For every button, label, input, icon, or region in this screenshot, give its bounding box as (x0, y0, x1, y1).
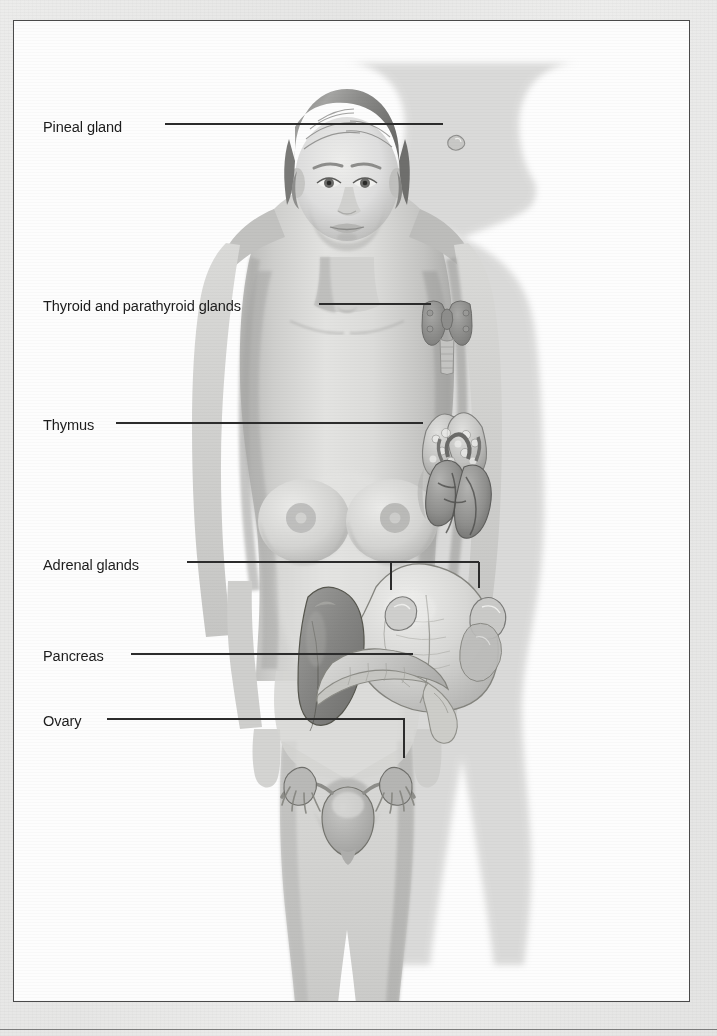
figure-panel: Pineal glandThyroid and parathyroid glan… (13, 20, 690, 1002)
label-pineal: Pineal gland (43, 118, 122, 136)
label-pancreas: Pancreas (43, 647, 104, 665)
label-adrenal: Adrenal glands (43, 556, 139, 574)
page-horizontal-rule (0, 1029, 717, 1030)
leader-line-ovary (107, 719, 404, 758)
leader-lines-layer (14, 21, 690, 1002)
label-ovary: Ovary (43, 712, 81, 730)
label-thymus: Thymus (43, 416, 94, 434)
label-thyroid: Thyroid and parathyroid glands (43, 297, 241, 315)
leader-line-adrenal (187, 562, 479, 590)
